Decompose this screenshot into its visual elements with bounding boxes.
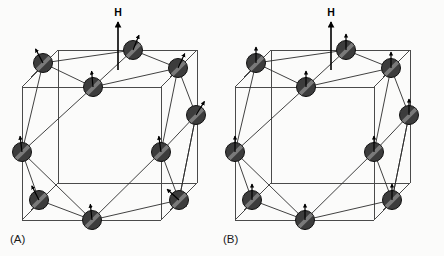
crystal-spin-diagram: H(A)H(B) xyxy=(0,0,444,256)
background xyxy=(0,0,444,256)
figure-canvas: H(A)H(B) xyxy=(0,0,444,256)
magnetic-field-label: H xyxy=(114,6,122,18)
panel-caption-B: (B) xyxy=(223,233,239,245)
magnetic-field-label: H xyxy=(327,6,335,18)
panel-caption-A: (A) xyxy=(10,233,26,245)
